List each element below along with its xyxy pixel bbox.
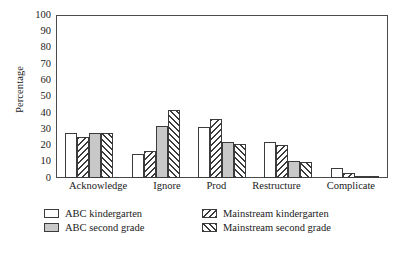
- y-tick-text: 80: [41, 42, 57, 53]
- y-tick-text: 30: [41, 124, 57, 135]
- bar: [198, 127, 210, 178]
- x-tick-label: Ignore: [153, 180, 180, 191]
- y-tick-text: 50: [41, 91, 57, 102]
- bar: [288, 161, 300, 178]
- x-tick-label: Complicate: [327, 180, 375, 191]
- legend-swatch: [44, 223, 59, 232]
- bar: [367, 176, 379, 178]
- bar: [132, 154, 144, 178]
- y-tick-text: 20: [41, 140, 57, 151]
- y-tick-text: 40: [41, 108, 57, 119]
- y-tick-text: 10: [41, 156, 57, 167]
- bar-group: [198, 15, 246, 178]
- legend-label: Mainstream kindergarten: [223, 208, 329, 219]
- x-tick-label: Prod: [207, 180, 227, 191]
- bar-group: [132, 15, 180, 178]
- bar: [144, 151, 156, 178]
- x-tick-label: Restructure: [252, 180, 300, 191]
- legend-swatch: [44, 209, 59, 218]
- bar-groups: [56, 15, 388, 178]
- chart-legend: ABC kindergartenMainstream kindergartenA…: [44, 208, 404, 233]
- y-tick-text: 0: [46, 173, 56, 184]
- y-tick-text: 100: [35, 10, 56, 21]
- legend-label: ABC kindergarten: [65, 208, 142, 219]
- bar: [300, 162, 312, 178]
- bar: [222, 142, 234, 178]
- bar: [156, 126, 168, 178]
- x-tick-label: Acknowledge: [69, 180, 127, 191]
- bar: [168, 110, 180, 178]
- legend-item: ABC second grade: [44, 222, 202, 233]
- bar: [331, 168, 343, 178]
- bar: [234, 144, 246, 178]
- bar-group: [331, 15, 379, 178]
- bar: [210, 119, 222, 178]
- legend-label: Mainstream second grade: [223, 222, 331, 233]
- legend-item: Mainstream second grade: [202, 222, 402, 233]
- bar: [65, 133, 77, 178]
- x-axis-labels: AcknowledgeIgnoreProdRestructureComplica…: [56, 180, 388, 191]
- bar: [89, 133, 101, 178]
- y-tick-text: 70: [41, 59, 57, 70]
- bar: [355, 176, 367, 178]
- y-tick-text: 90: [41, 26, 57, 37]
- bar-group: [264, 15, 312, 178]
- bar-group: [65, 15, 113, 178]
- bar-chart: Percentage 1009080706050403020100 Acknow…: [0, 0, 412, 253]
- legend-swatch: [202, 223, 217, 232]
- y-axis-title: Percentage: [14, 40, 25, 140]
- legend-swatch: [202, 209, 217, 218]
- bar: [264, 142, 276, 178]
- legend-label: ABC second grade: [65, 222, 144, 233]
- legend-item: ABC kindergarten: [44, 208, 202, 219]
- bar: [276, 145, 288, 178]
- bar: [343, 173, 355, 178]
- bar: [101, 133, 113, 178]
- legend-item: Mainstream kindergarten: [202, 208, 402, 219]
- bar: [77, 137, 89, 178]
- y-tick-text: 60: [41, 75, 57, 86]
